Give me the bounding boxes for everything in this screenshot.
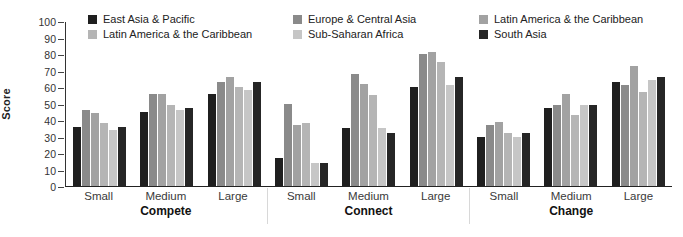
legend-item: Latin America & the Caribbean: [479, 13, 663, 25]
panel-footer-connect: SmallMediumLargeConnect: [268, 188, 471, 224]
legend-label: South Asia: [494, 28, 547, 40]
panel-title: Compete: [65, 202, 267, 218]
bar: [571, 115, 579, 186]
panel-compete: [66, 22, 268, 186]
bar: [342, 128, 350, 186]
bar: [244, 90, 252, 186]
legend-item: Latin America & the Caribbean: [88, 28, 293, 40]
panel-footer-change: SmallMediumLargeChange: [470, 188, 672, 224]
y-tick-mark: [58, 121, 64, 122]
legend-swatch-icon: [293, 30, 302, 39]
bar: [91, 113, 99, 186]
bar: [378, 128, 386, 186]
y-tick-mark: [58, 154, 64, 155]
bar: [544, 108, 552, 186]
bar: [513, 137, 521, 187]
bar: [311, 163, 319, 186]
bar: [275, 158, 283, 186]
size-label: Large: [203, 190, 263, 202]
bar: [410, 87, 418, 186]
y-tick-label: 90: [30, 34, 56, 44]
bar: [522, 133, 530, 186]
y-tick-label: 60: [30, 83, 56, 93]
bar: [486, 125, 494, 186]
legend-item: East Asia & Pacific: [88, 13, 293, 25]
bar: [446, 85, 454, 186]
bar: [495, 122, 503, 186]
bar: [100, 123, 108, 186]
bar: [176, 110, 184, 186]
legend-label: East Asia & Pacific: [103, 13, 195, 25]
bar: [320, 163, 328, 186]
bar: [235, 87, 243, 186]
legend-label: Europe & Central Asia: [308, 13, 416, 25]
bar: [428, 52, 436, 186]
bar: [208, 94, 216, 186]
bar: [477, 137, 485, 187]
bar: [158, 94, 166, 186]
bar: [82, 110, 90, 186]
bar: [580, 105, 588, 186]
size-labels: SmallMediumLarge: [65, 188, 267, 202]
group-change-large: [612, 66, 665, 186]
group-compete-large: [208, 77, 261, 186]
bar: [639, 92, 647, 186]
size-label: Medium: [339, 190, 399, 202]
bar: [387, 133, 395, 186]
y-tick-mark: [58, 39, 64, 40]
panel-title: Connect: [268, 202, 470, 218]
legend-item: South Asia: [479, 28, 663, 40]
size-label: Small: [271, 190, 331, 202]
legend-swatch-icon: [479, 30, 488, 39]
bar: [109, 130, 117, 186]
y-tick-mark: [58, 88, 64, 89]
bar: [217, 82, 225, 186]
bar: [455, 77, 463, 186]
y-tick-mark: [58, 22, 64, 23]
bar: [226, 77, 234, 186]
y-tick-label: 30: [30, 133, 56, 143]
panel-change: [470, 22, 672, 186]
bar: [253, 82, 261, 186]
y-tick-label: 70: [30, 67, 56, 77]
legend-item: Sub-Saharan Africa: [293, 28, 479, 40]
bar: [369, 95, 377, 186]
y-axis-title: Score: [0, 79, 12, 129]
panel-connect: [268, 22, 470, 186]
legend-label: Latin America & the Caribbean: [103, 28, 252, 40]
y-tick-mark: [58, 72, 64, 73]
bar: [140, 112, 148, 186]
group-connect-large: [410, 52, 463, 186]
bar: [437, 62, 445, 186]
plot-area: [65, 22, 672, 187]
size-label: Small: [474, 190, 534, 202]
y-tick-mark: [58, 171, 64, 172]
bar: [73, 127, 81, 186]
bar: [621, 85, 629, 186]
bar: [553, 105, 561, 186]
legend-swatch-icon: [88, 15, 97, 24]
size-label: Large: [608, 190, 668, 202]
size-label: Medium: [136, 190, 196, 202]
size-label: Medium: [541, 190, 601, 202]
legend-swatch-icon: [88, 30, 97, 39]
bar: [149, 94, 157, 186]
size-labels: SmallMediumLarge: [470, 188, 672, 202]
legend-item: Europe & Central Asia: [293, 13, 479, 25]
y-tick-mark: [58, 187, 64, 188]
y-tick-label: 80: [30, 50, 56, 60]
bar: [293, 125, 301, 186]
y-tick-label: 10: [30, 166, 56, 176]
size-labels: SmallMediumLarge: [268, 188, 470, 202]
bar: [302, 123, 310, 186]
bar: [648, 80, 656, 186]
legend-swatch-icon: [293, 15, 302, 24]
group-compete-medium: [140, 94, 193, 186]
bar: [612, 82, 620, 186]
bar: [657, 77, 665, 186]
bar: [589, 105, 597, 186]
size-label: Small: [69, 190, 129, 202]
group-compete-small: [73, 110, 126, 186]
y-tick-label: 20: [30, 149, 56, 159]
bar: [118, 127, 126, 186]
